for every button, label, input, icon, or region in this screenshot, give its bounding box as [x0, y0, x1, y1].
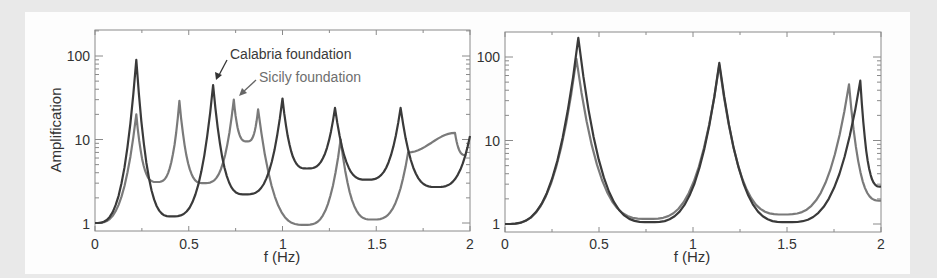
- right-xtick: 1: [689, 236, 697, 252]
- left-ytick: 100: [67, 48, 91, 64]
- left-ylabel: Amplification: [47, 87, 64, 172]
- right-xtick: 1.5: [777, 236, 797, 252]
- left-xtick: 1.5: [367, 236, 387, 252]
- right-xtick: 0.5: [589, 236, 609, 252]
- right-ytick: 10: [484, 133, 500, 149]
- right-xtick: 2: [877, 236, 885, 252]
- right-ytick: 1: [492, 216, 500, 232]
- left-ytick: 1: [82, 216, 90, 232]
- left-xtick: 0: [91, 236, 99, 252]
- left-xtick: 0.5: [179, 236, 199, 252]
- right-ytick: 100: [477, 49, 501, 65]
- left-ytick: 10: [74, 132, 90, 148]
- labels-layer: Amplification f (Hz) f (Hz) 0 0.5 1 1.5 …: [0, 0, 937, 278]
- right-xtick: 0: [501, 236, 509, 252]
- arrow-sicily-icon: [239, 80, 256, 96]
- annotation-sicily: Sicily foundation: [259, 69, 361, 85]
- left-xtick: 2: [466, 236, 474, 252]
- annotation-calabria: Calabria foundation: [230, 46, 351, 62]
- arrow-calabria-icon: [215, 60, 227, 80]
- left-xtick: 1: [279, 236, 287, 252]
